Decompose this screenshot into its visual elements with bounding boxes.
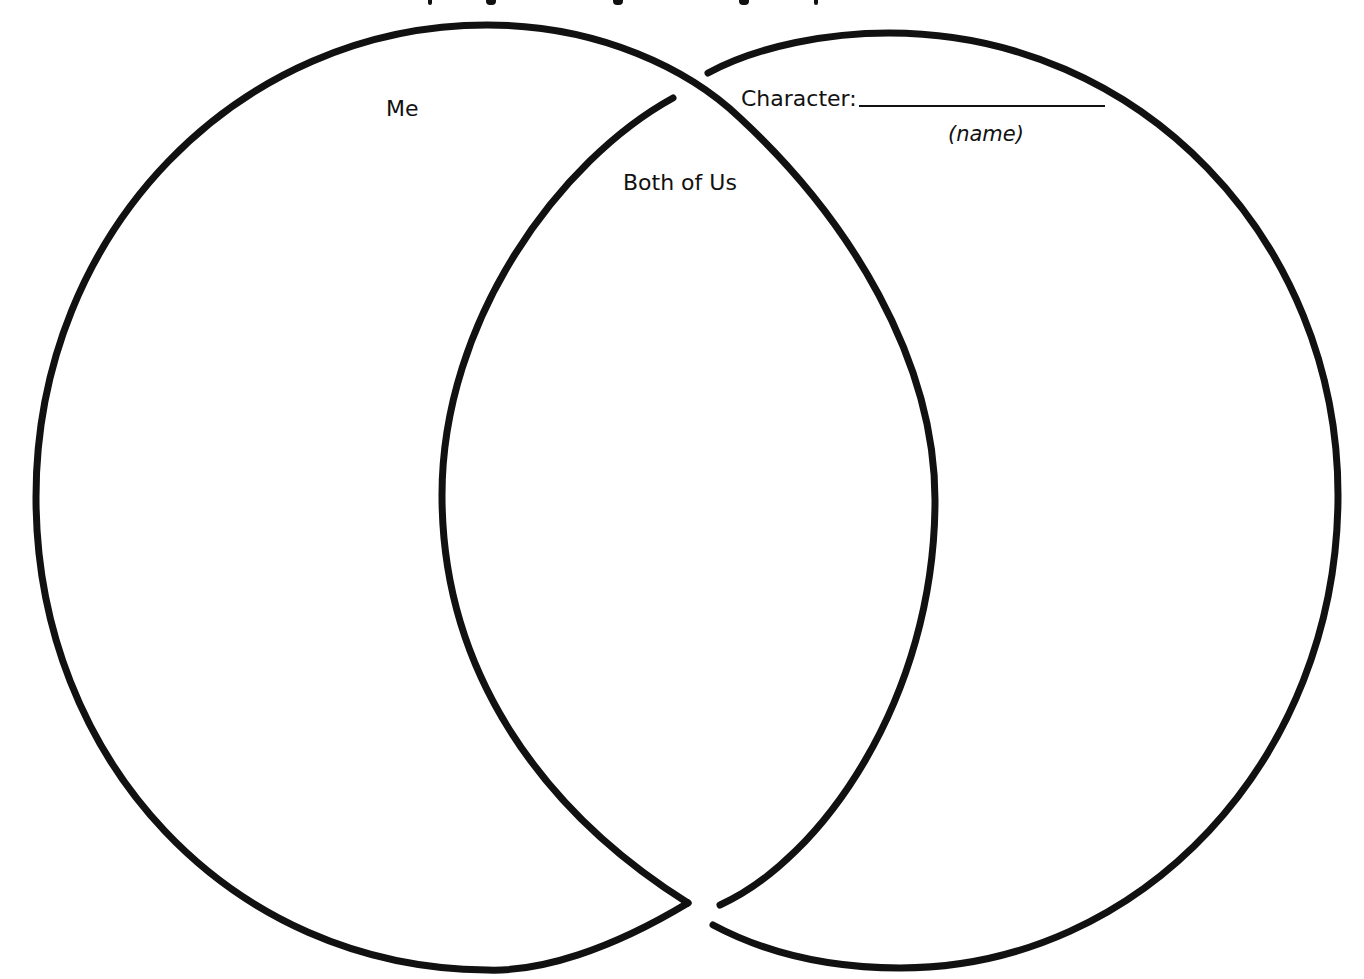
label-me: Me: [386, 98, 419, 120]
left-circle: [36, 25, 935, 970]
venn-diagram: [0, 0, 1364, 979]
label-both-of-us: Both of Us: [623, 172, 737, 194]
character-name-field-group: Character:: [741, 88, 1105, 110]
cut-header-fragment: [428, 0, 432, 5]
label-character: Character:: [741, 88, 857, 110]
cut-header-fragment: [814, 0, 818, 5]
character-name-blank-line[interactable]: [859, 105, 1105, 107]
label-name-hint: (name): [948, 124, 1024, 145]
